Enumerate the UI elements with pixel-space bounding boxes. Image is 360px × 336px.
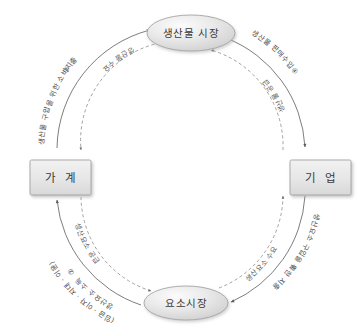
flow-sublabel-outer-2: (임금 · 이자 · 지대 · 이윤) [47, 260, 116, 326]
node-firm[interactable]: 기 업 [290, 160, 351, 195]
flow-marker-outer-2-text: ② [65, 266, 76, 277]
flow-label-inner-factor-supply-text: 생산요소 공급 [73, 222, 102, 266]
flow-marker-outer-2: ② [65, 266, 76, 277]
flow-label-outer-4: 생산물 판매수입 [250, 28, 296, 70]
circular-flow-diagram: 생산물 구입을 위한 소비지출 ③ 생산물 판매수입 ④ 생산요소 구입을 위한… [0, 0, 360, 336]
flow-arrow-inner-product-supply[interactable] [211, 50, 283, 150]
diagram-canvas: 생산물 구입을 위한 소비지출 ③ 생산물 판매수입 ④ 생산요소 구입을 위한… [0, 0, 360, 336]
flow-label-inner-factor-supply: 생산요소 공급 [73, 222, 102, 266]
inner-real-flow-ring [81, 41, 284, 291]
flow-arrow-inner-factor-supply[interactable] [81, 197, 151, 291]
flow-arrow-outer-1[interactable] [231, 196, 305, 302]
node-factor-market[interactable]: 요소시장 [144, 286, 228, 320]
household-label: 가 계 [45, 171, 80, 185]
factor-market-label: 요소시장 [165, 297, 207, 309]
flow-arrow-outer-4[interactable] [226, 38, 305, 147]
flow-label-outer-4-text: 생산물 판매수입 [250, 28, 296, 70]
firm-label: 기 업 [305, 171, 340, 185]
flow-label-inner-product-demand: 생산물 수요 [100, 45, 136, 74]
node-product-market[interactable]: 생산물 시장 [147, 15, 235, 51]
flow-label-inner-factor-demand: 생산요소 수요 [243, 244, 279, 283]
product-market-label: 생산물 시장 [163, 27, 219, 39]
flow-arrow-outer-3[interactable] [57, 30, 150, 148]
flow-sublabel-outer-2-text: (임금 · 이자 · 지대 · 이윤) [47, 260, 116, 326]
flow-label-inner-product-demand-text: 생산물 수요 [100, 45, 136, 74]
flow-label-inner-factor-demand-text: 생산요소 수요 [243, 244, 279, 283]
node-household[interactable]: 가 계 [30, 160, 91, 195]
